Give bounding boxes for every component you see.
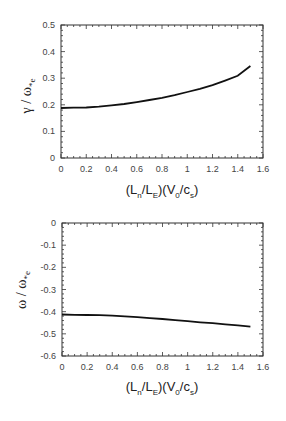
growth-rate-curve <box>61 66 250 108</box>
x-tick-label: 1.4 <box>231 164 244 174</box>
y-tick-label: 0.2 <box>42 100 55 110</box>
y-tick-label: -0.4 <box>40 307 56 317</box>
bottom-x-axis-title: (Ln/LE)(V0/cs) <box>126 379 198 397</box>
frequency-curve <box>62 315 250 327</box>
bottom-tick-labels: 00.20.40.60.811.21.41.60-0.1-0.2-0.3-0.4… <box>40 218 269 372</box>
x-tick-label: 1.2 <box>206 362 219 372</box>
y-tick-label: -0.5 <box>40 329 56 339</box>
y-tick-label: -0.2 <box>40 262 56 272</box>
bottom-ticks <box>62 223 263 356</box>
y-tick-label: -0.1 <box>40 240 56 250</box>
top-tick-labels: 00.20.40.60.811.21.41.600.10.20.30.40.5 <box>42 20 269 174</box>
bottom-y-axis-title: ω / ω*e <box>14 271 32 309</box>
x-tick-label: 0.2 <box>80 164 93 174</box>
x-tick-label: 1 <box>185 362 190 372</box>
y-tick-label: 0.1 <box>42 126 55 136</box>
x-tick-label: 0.8 <box>156 164 169 174</box>
x-tick-label: 0.6 <box>130 164 143 174</box>
frequency-plot: 00.20.40.60.811.21.41.60-0.1-0.2-0.3-0.4… <box>14 218 269 397</box>
top-x-axis-title: (Ln/LE)(V0/cs) <box>126 182 198 200</box>
x-tick-label: 1 <box>185 164 190 174</box>
y-tick-label: 0.3 <box>42 73 55 83</box>
y-tick-label: 0 <box>51 218 56 228</box>
x-tick-label: 1.2 <box>206 164 219 174</box>
y-tick-label: -0.3 <box>40 285 56 295</box>
x-tick-label: 0.2 <box>81 362 94 372</box>
x-tick-label: 0.8 <box>156 362 169 372</box>
top-plot-frame <box>61 25 263 158</box>
top-ticks <box>61 25 263 158</box>
x-tick-label: 0.6 <box>131 362 144 372</box>
x-tick-label: 1.6 <box>257 164 270 174</box>
x-tick-label: 1.6 <box>257 362 270 372</box>
bottom-plot-frame <box>62 223 263 356</box>
x-tick-label: 1.4 <box>232 362 245 372</box>
svg-text:ω / ω*e: ω / ω*e <box>14 271 32 309</box>
x-tick-label: 0 <box>58 164 63 174</box>
y-tick-label: 0 <box>50 153 55 163</box>
y-tick-label: -0.6 <box>40 351 56 361</box>
x-tick-label: 0 <box>59 362 64 372</box>
figure: 00.20.40.60.811.21.41.600.10.20.30.40.5 … <box>0 0 286 421</box>
x-tick-label: 0.4 <box>105 164 118 174</box>
x-tick-label: 0.4 <box>106 362 119 372</box>
top-y-axis-title: γ / ω*e <box>19 79 37 115</box>
growth-rate-plot: 00.20.40.60.811.21.41.600.10.20.30.40.5 … <box>19 20 269 200</box>
y-tick-label: 0.5 <box>42 20 55 30</box>
svg-text:γ / ω*e: γ / ω*e <box>19 79 37 115</box>
y-tick-label: 0.4 <box>42 47 55 57</box>
